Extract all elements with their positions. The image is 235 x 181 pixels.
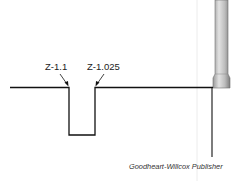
groove-diagram: Z-1.1 Z-1.025 Goodheart-Willcox Publishe… <box>0 0 235 181</box>
diagram-svg: Z-1.1 Z-1.025 Goodheart-Willcox Publishe… <box>0 0 235 181</box>
leader-arrow-right-icon <box>96 74 105 87</box>
cutting-tool-icon <box>213 0 230 88</box>
label-z-1-025: Z-1.025 <box>87 61 120 72</box>
groove-profile-line <box>10 88 213 136</box>
leader-arrow-left-icon <box>60 74 69 87</box>
publisher-caption: Goodheart-Willcox Publisher <box>129 162 223 171</box>
label-z-1-1: Z-1.1 <box>45 61 67 72</box>
